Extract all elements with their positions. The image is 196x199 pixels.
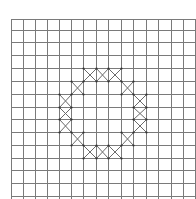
background [0,0,196,199]
vertex-dot [132,131,134,133]
vertex-dot [145,131,147,133]
vertex-dot [120,67,122,69]
vertex-dot [95,144,97,146]
vertex-dot [70,93,72,95]
vertex-dot [120,131,122,133]
vertex-dot [107,157,109,159]
vertex-dot [95,157,97,159]
vertex-dot [132,106,134,108]
vertex-dot [82,131,84,133]
vertex-dot [82,157,84,159]
vertex-dot [58,106,60,108]
vertex-dot [82,144,84,146]
vertex-dot [70,144,72,146]
vertex-dot [120,93,122,95]
vertex-dot [58,93,60,95]
vertex-dot [145,93,147,95]
vertex-dot [95,80,97,82]
vertex-dot [145,106,147,108]
vertex-dot [132,80,134,82]
grid-diagram [0,0,196,199]
vertex-dot [82,67,84,69]
vertex-dot [145,118,147,120]
vertex-dot [58,118,60,120]
vertex-dot [107,67,109,69]
vertex-dot [107,80,109,82]
vertex-dot [107,144,109,146]
vertex-dot [120,80,122,82]
vertex-dot [82,93,84,95]
vertex-dot [132,93,134,95]
vertex-dot [120,144,122,146]
vertex-dot [70,80,72,82]
vertex-dot [58,131,60,133]
vertex-dot [82,80,84,82]
vertex-dot [70,131,72,133]
vertex-dot [70,106,72,108]
vertex-dot [95,67,97,69]
vertex-dot [70,118,72,120]
vertex-dot [132,144,134,146]
vertex-dot [132,118,134,120]
vertex-dot [120,157,122,159]
